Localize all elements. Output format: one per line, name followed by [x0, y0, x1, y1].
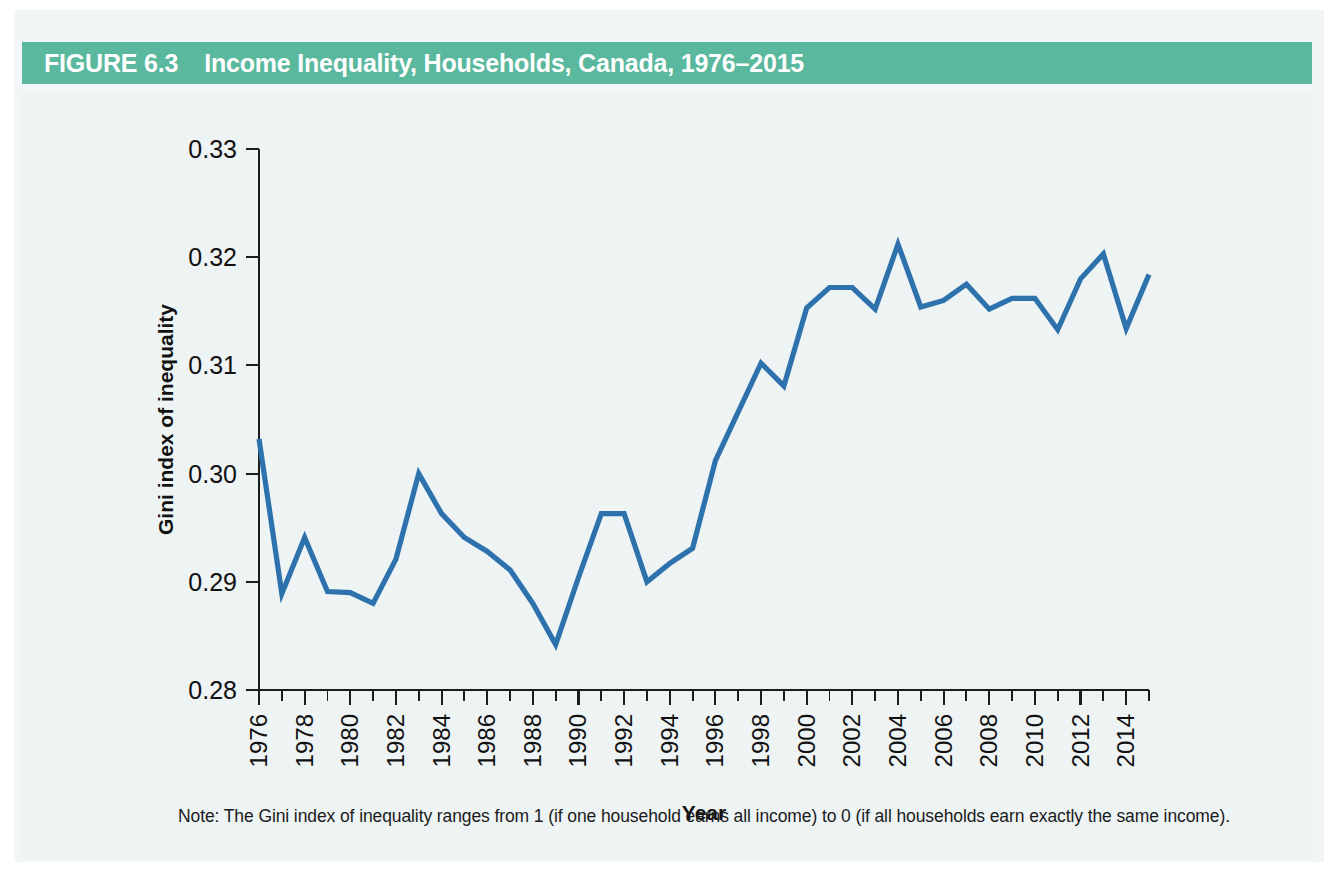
y-axis-tick-label: 0.29 — [188, 568, 237, 596]
x-axis-tick-label: 1996 — [701, 714, 728, 767]
x-axis-tick-label: 1994 — [656, 714, 683, 767]
x-axis-tick-label: 2002 — [838, 714, 865, 767]
figure-root: FIGURE 6.3Income Inequality, Households,… — [0, 0, 1338, 878]
x-axis-tick-label: 2000 — [793, 714, 820, 767]
chart-panel: 0.280.290.300.310.320.331976197819801982… — [22, 92, 1312, 860]
x-axis-tick-label: 2008 — [975, 714, 1002, 767]
figure-number-label: FIGURE 6.3 — [44, 49, 178, 77]
x-axis-tick-label: 2014 — [1112, 714, 1139, 767]
x-axis-tick-label: 2012 — [1067, 714, 1094, 767]
x-axis-tick-label: 1978 — [291, 714, 318, 767]
x-axis-tick-label: 1998 — [747, 714, 774, 767]
y-axis-tick-label: 0.33 — [188, 135, 237, 163]
figure-title: Income Inequality, Households, Canada, 1… — [204, 49, 804, 77]
x-axis-tick-label: 1976 — [245, 714, 272, 767]
x-axis-tick-label: 1984 — [428, 714, 455, 767]
y-axis-tick-label: 0.31 — [188, 351, 237, 379]
x-axis-tick-label: 2010 — [1021, 714, 1048, 767]
line-chart: 0.280.290.300.310.320.331976197819801982… — [22, 92, 1312, 860]
x-axis-tick-label: 1990 — [564, 714, 591, 767]
x-axis-tick-label: 2006 — [930, 714, 957, 767]
figure-header-band: FIGURE 6.3Income Inequality, Households,… — [22, 42, 1312, 84]
x-axis-tick-label: 1982 — [382, 714, 409, 767]
x-axis-tick-label: 1986 — [473, 714, 500, 767]
x-axis-tick-label: 1992 — [610, 714, 637, 767]
y-axis-tick-label: 0.30 — [188, 460, 237, 488]
x-axis-tick-label: 1988 — [519, 714, 546, 767]
figure-header-text: FIGURE 6.3Income Inequality, Households,… — [22, 49, 804, 78]
y-axis-tick-label: 0.32 — [188, 243, 237, 271]
y-axis-title: Gini index of inequality — [154, 304, 177, 535]
figure-note: Note: The Gini index of inequality range… — [178, 806, 1238, 827]
data-series-line — [259, 244, 1149, 644]
y-axis-tick-label: 0.28 — [188, 676, 237, 704]
x-axis-tick-label: 1980 — [336, 714, 363, 767]
x-axis-tick-label: 2004 — [884, 714, 911, 767]
